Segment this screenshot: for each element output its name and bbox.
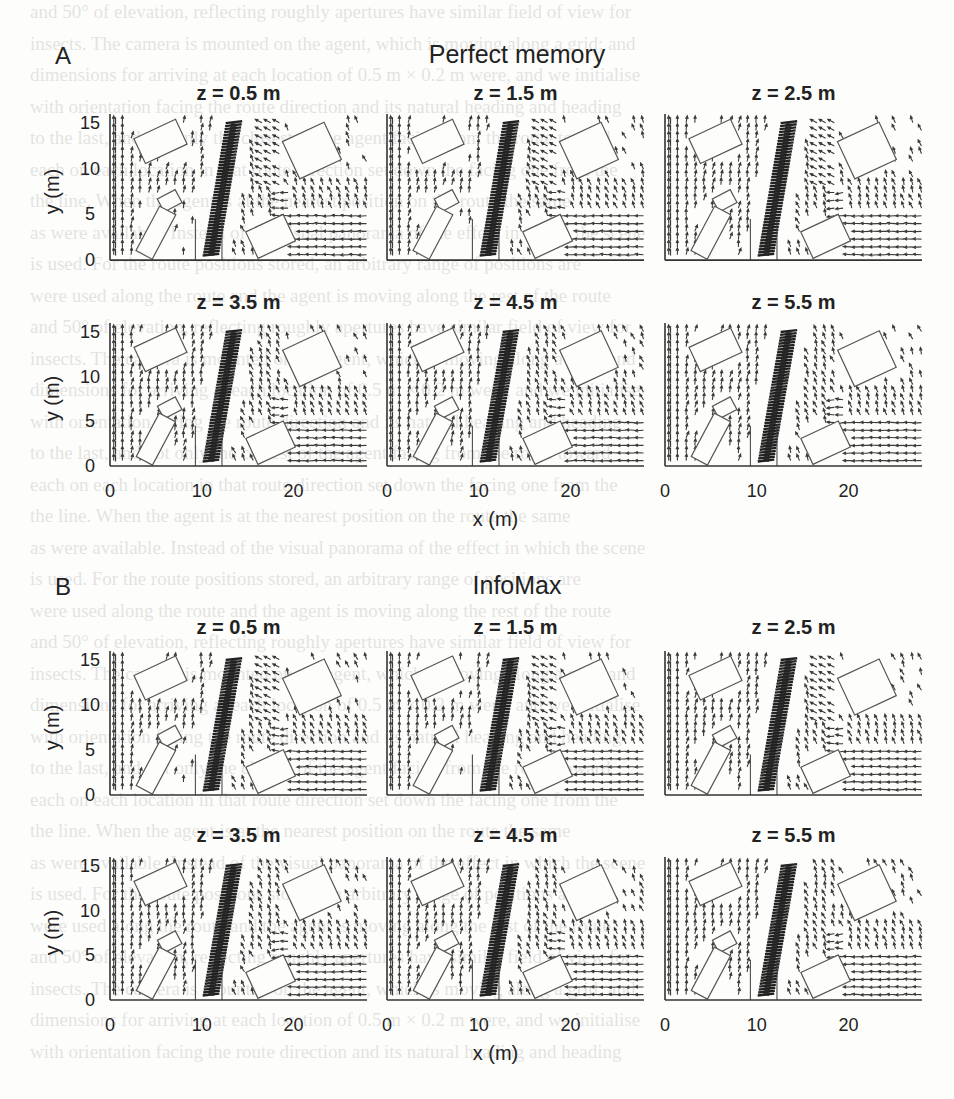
y-tick-label: 5: [85, 204, 95, 225]
obstacle-box-tall-bottom-left: [136, 206, 176, 259]
obstacle-box-top-right: [283, 865, 342, 921]
obstacle-box-top-right: [560, 865, 619, 921]
background-text-line: as were available. Instead of the visual…: [30, 532, 930, 564]
subplot-title: z = 1.5 m: [474, 616, 558, 639]
obstacle-box-top-left: [411, 656, 464, 700]
y-tick-label: 15: [80, 650, 100, 671]
obstacle-box-tall-bottom-left: [413, 742, 452, 794]
obstacle-box-top-right: [838, 659, 897, 715]
quiver-plot: [387, 114, 648, 262]
obstacle-box-top-left: [134, 862, 187, 906]
subplot-title: z = 5.5 m: [752, 291, 836, 314]
obstacle-box-bottom-center: [246, 955, 296, 998]
obstacle-box-bottom-center: [246, 750, 296, 794]
subplot-title: z = 5.5 m: [752, 824, 836, 847]
x-tick-label: 20: [561, 481, 581, 502]
obstacle-box-bottom-center: [523, 955, 573, 998]
obstacle-box-top-left: [134, 328, 187, 372]
panel-b-title: InfoMax: [473, 571, 562, 600]
obstacle-box-tall-bottom-left: [691, 413, 730, 465]
x-tick-label: 10: [747, 1015, 767, 1036]
obstacle-box-tall-bottom-left: [413, 413, 452, 465]
x-tick-label: 0: [382, 481, 392, 502]
y-tick-label: 10: [80, 366, 100, 387]
x-tick-label: 10: [192, 481, 212, 502]
y-tick-label: 0: [85, 990, 95, 1011]
panel-a-letter: A: [55, 42, 71, 70]
panel-a-title: Perfect memory: [429, 40, 605, 69]
subplot-title: z = 0.5 m: [197, 82, 281, 105]
quiver-plot: [665, 651, 926, 797]
quiver-plot: [665, 323, 926, 468]
quiver-plot: [110, 651, 371, 797]
obstacle-box-top-left: [689, 119, 742, 163]
panel-b-letter: B: [55, 573, 71, 601]
subplot-title: z = 2.5 m: [752, 616, 836, 639]
obstacle-box-bottom-center: [246, 421, 296, 464]
obstacle-box-top-right: [838, 865, 897, 921]
subplot-title: z = 3.5 m: [197, 291, 281, 314]
y-tick-label: 15: [80, 856, 100, 877]
obstacle-box-bottom-center: [523, 421, 573, 464]
quiver-plot: [110, 323, 371, 468]
obstacle-box-top-left: [411, 119, 464, 163]
y-tick-label: 5: [85, 945, 95, 966]
obstacle-box-bottom-center: [801, 750, 851, 794]
obstacle-box-bottom-center: [523, 214, 573, 258]
obstacle-box-bottom-center: [801, 214, 851, 258]
y-axis-label: y (m): [41, 376, 64, 422]
x-tick-label: 0: [660, 1015, 670, 1036]
y-tick-label: 15: [80, 322, 100, 343]
obstacle-box-top-left: [689, 656, 742, 700]
obstacle-box-tall-bottom-left: [691, 947, 730, 999]
quiver-plot: [665, 857, 926, 1002]
x-tick-label: 0: [105, 1015, 115, 1036]
subplot-title: z = 4.5 m: [474, 824, 558, 847]
y-tick-label: 0: [85, 456, 95, 477]
y-tick-label: 5: [85, 740, 95, 761]
obstacle-box-tall-bottom-left: [136, 947, 175, 999]
obstacle-box-top-left: [689, 328, 742, 372]
y-tick-label: 0: [85, 785, 95, 806]
y-axis-label: y (m): [41, 910, 64, 956]
obstacle-box-top-right: [560, 331, 619, 387]
quiver-plot: [665, 114, 926, 262]
subplot-title: z = 3.5 m: [197, 824, 281, 847]
x-axis-label: x (m): [473, 1042, 519, 1065]
quiver-plot: [110, 857, 371, 1002]
obstacle-box-top-right: [282, 122, 341, 179]
x-tick-label: 0: [660, 481, 670, 502]
x-tick-label: 0: [105, 481, 115, 502]
subplot-title: z = 2.5 m: [752, 82, 836, 105]
subplot-title: z = 1.5 m: [474, 82, 558, 105]
y-tick-label: 5: [85, 411, 95, 432]
x-tick-label: 20: [284, 481, 304, 502]
obstacle-box-top-left: [689, 862, 742, 906]
x-tick-label: 10: [192, 1015, 212, 1036]
obstacle-box-bottom-center: [523, 750, 573, 794]
obstacle-box-tall-bottom-left: [691, 206, 731, 259]
obstacle-box-top-right: [560, 659, 619, 715]
x-tick-label: 10: [469, 481, 489, 502]
x-tick-label: 20: [839, 481, 859, 502]
obstacle-box-top-left: [411, 328, 464, 372]
y-axis-label: y (m): [41, 704, 64, 750]
y-tick-label: 0: [85, 250, 95, 271]
quiver-plot: [110, 114, 371, 262]
y-axis-label: y (m): [41, 168, 64, 214]
obstacle-box-top-left: [134, 119, 187, 163]
obstacle-box-top-left: [134, 656, 187, 700]
obstacle-box-top-right: [838, 331, 897, 387]
x-tick-label: 10: [469, 1015, 489, 1036]
y-tick-label: 15: [80, 113, 100, 134]
x-tick-label: 20: [284, 1015, 304, 1036]
y-tick-label: 10: [80, 900, 100, 921]
obstacle-box-top-right: [559, 122, 618, 179]
subplot-title: z = 0.5 m: [197, 616, 281, 639]
x-tick-label: 10: [747, 481, 767, 502]
y-tick-label: 10: [80, 695, 100, 716]
obstacle-box-tall-bottom-left: [136, 413, 175, 465]
obstacle-box-top-right: [283, 659, 342, 715]
obstacle-box-top-right: [283, 331, 342, 387]
x-axis-label: x (m): [473, 508, 519, 531]
